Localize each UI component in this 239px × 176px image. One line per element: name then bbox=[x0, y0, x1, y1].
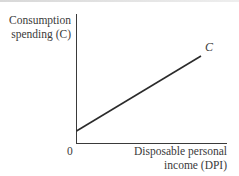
x-axis-label-line-1: Disposable personal bbox=[134, 144, 227, 158]
origin-label: 0 bbox=[67, 144, 73, 158]
x-axis-label-line-2: income (DPI) bbox=[134, 158, 227, 172]
y-axis-label-line-2: spending (C) bbox=[9, 27, 71, 41]
y-axis-label: Consumption spending (C) bbox=[9, 13, 71, 41]
y-axis-label-line-1: Consumption bbox=[9, 13, 71, 27]
consumption-line bbox=[77, 56, 202, 131]
curve-label-c: C bbox=[205, 40, 213, 55]
x-axis-label: Disposable personal income (DPI) bbox=[134, 144, 227, 172]
